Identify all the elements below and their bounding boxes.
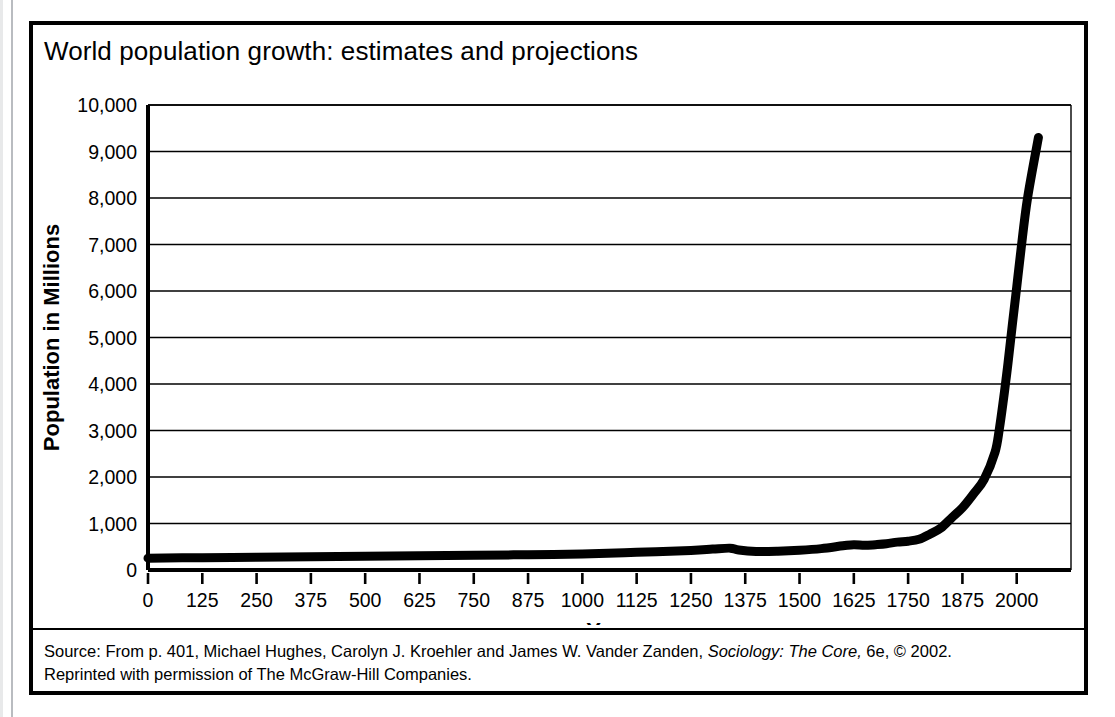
x-tick-label: 1125 — [616, 589, 658, 611]
x-tick-label: 1375 — [724, 589, 768, 611]
y-tick-label: 7,000 — [88, 234, 137, 256]
y-tick-label: 6,000 — [88, 280, 137, 302]
x-tick-label: 1500 — [778, 589, 822, 611]
population-curve — [148, 138, 1038, 559]
x-tick-label: 1750 — [886, 589, 930, 611]
caption-source-text: Source: From p. 401, Michael Hughes, Car… — [44, 642, 708, 660]
x-tick-label: 1250 — [669, 589, 713, 611]
y-tick-label: 1,000 — [88, 513, 137, 535]
y-axis-tick-labels: 01,0002,0003,0004,0005,0006,0007,0008,00… — [77, 94, 137, 581]
x-tick-label: 875 — [512, 589, 545, 611]
x-tick-label: 250 — [240, 589, 273, 611]
page-edge-artifact — [0, 0, 3, 717]
x-tick-label: 625 — [403, 589, 436, 611]
y-axis-title: Population in Millions — [39, 224, 64, 451]
x-tick-label: 500 — [349, 589, 382, 611]
y-tick-label: 3,000 — [88, 420, 137, 442]
x-axis-title: Year — [586, 618, 633, 625]
y-tick-label: 4,000 — [88, 373, 137, 395]
x-axis-ticks — [148, 573, 1017, 584]
x-tick-label: 0 — [143, 589, 154, 611]
x-tick-label: 1875 — [941, 589, 985, 611]
x-tick-label: 375 — [295, 589, 328, 611]
population-line-chart: 01,0002,0003,0004,0005,0006,0007,0008,00… — [33, 25, 1084, 625]
caption-divider — [33, 628, 1084, 630]
figure-root: World population growth: estimates and p… — [0, 0, 1115, 717]
x-tick-label: 1000 — [561, 589, 605, 611]
x-tick-label: 2000 — [995, 589, 1039, 611]
x-tick-label: 750 — [457, 589, 490, 611]
y-tick-label: 0 — [126, 559, 137, 581]
y-tick-label: 9,000 — [88, 141, 137, 163]
page-edge-artifact-line — [11, 0, 13, 717]
caption-permission-text: Reprinted with permission of The McGraw-… — [44, 665, 472, 683]
y-tick-label: 5,000 — [88, 327, 137, 349]
figure-caption: Source: From p. 401, Michael Hughes, Car… — [44, 640, 1074, 687]
x-tick-label: 1625 — [832, 589, 876, 611]
y-tick-label: 10,000 — [77, 94, 137, 116]
y-tick-label: 8,000 — [88, 187, 137, 209]
x-tick-label: 125 — [186, 589, 219, 611]
y-tick-label: 2,000 — [88, 466, 137, 488]
caption-edition-text: 6e, © 2002. — [862, 642, 952, 660]
caption-book-title: Sociology: The Core, — [708, 642, 862, 660]
x-axis-tick-labels: 0125250375500625750875100011251250137515… — [143, 589, 1039, 611]
gridlines — [148, 105, 1071, 524]
